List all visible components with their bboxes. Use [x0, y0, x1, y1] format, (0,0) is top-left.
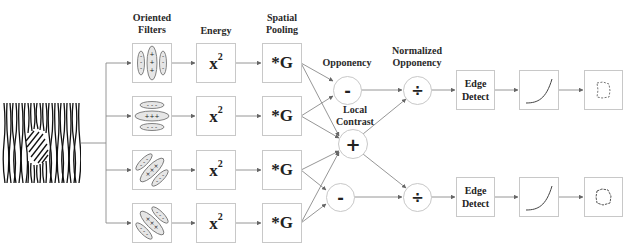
energy-box-2: x2 [196, 96, 236, 136]
normalize-divide-top: ÷ [403, 76, 432, 105]
diagonal-left-filter-icon: --- ××× --- [133, 204, 171, 242]
energy-base: x [209, 160, 218, 179]
edge-detect-label: Edge Detect [462, 184, 489, 210]
label-opponency: Opponency [314, 57, 380, 69]
exponential-curve-icon [520, 178, 558, 216]
energy-square-label: x2 [209, 53, 223, 74]
svg-text:+++: +++ [144, 112, 159, 119]
label-line: Local [330, 104, 380, 116]
svg-text:-: - [143, 158, 145, 165]
diagonal-right-filter-icon: --- ××× --- [133, 151, 171, 189]
svg-text:- - -: - - - [147, 123, 157, 130]
svg-text:-: - [140, 224, 142, 231]
svg-text:- - -: - - - [147, 101, 157, 108]
exponential-curve-icon [520, 71, 558, 109]
svg-text:×: × [145, 215, 150, 222]
svg-text:×: × [145, 170, 150, 177]
pooling-box-1: *G [262, 43, 302, 83]
label-line: Spatial [256, 12, 308, 24]
energy-base: x [209, 213, 218, 232]
opponency-subtract-bottom: - [326, 183, 355, 212]
energy-exponent: 2 [218, 211, 223, 222]
label-line: Detect [462, 90, 489, 103]
gaussian-pooling-label: *G [271, 213, 293, 233]
detected-contour-icon [585, 71, 622, 109]
svg-text:+: + [149, 50, 154, 57]
energy-exponent: 2 [218, 104, 223, 115]
edge-detect-box-bottom: Edge Detect [456, 177, 495, 217]
pooling-box-2: *G [262, 96, 302, 136]
svg-text:-: - [159, 211, 161, 218]
energy-base: x [209, 106, 218, 125]
svg-text:+: + [149, 66, 154, 73]
nonlinearity-box-bottom [519, 177, 559, 217]
label-oriented-filters: Oriented Filters [126, 12, 178, 36]
gaussian-pooling-label: *G [271, 106, 293, 126]
edge-detect-box-top: Edge Detect [456, 70, 495, 110]
filter-vertical: --- +++ --- [132, 43, 172, 83]
vertical-filter-icon: --- +++ --- [133, 44, 171, 82]
gaussian-pooling-label: *G [271, 53, 293, 73]
svg-text:-: - [140, 161, 142, 168]
energy-base: x [209, 53, 218, 72]
energy-square-label: x2 [209, 213, 223, 234]
filter-diagonal-left: --- ××× --- [132, 203, 172, 243]
nonlinearity-box-top [519, 70, 559, 110]
energy-square-label: x2 [209, 106, 223, 127]
label-line: Opponency [384, 57, 450, 69]
svg-text:-: - [146, 155, 148, 162]
svg-text:-: - [140, 64, 142, 71]
energy-exponent: 2 [218, 51, 223, 62]
label-line: Contrast [330, 116, 380, 128]
label-line: Pooling [256, 24, 308, 36]
output-box-bottom [584, 177, 623, 217]
normalize-divide-bottom: ÷ [403, 183, 432, 212]
svg-text:-: - [162, 64, 164, 71]
horizontal-filter-icon: - - -+++- - - [133, 97, 171, 135]
label-line: Edge [462, 77, 489, 90]
energy-square-label: x2 [209, 160, 223, 181]
opponency-subtract-top: - [333, 76, 362, 105]
filter-horizontal: - - -+++- - - [132, 96, 172, 136]
input-texture-image [2, 103, 81, 183]
filter-diagonal-right: --- ××× --- [132, 150, 172, 190]
svg-text:-: - [162, 214, 164, 221]
energy-box-4: x2 [196, 203, 236, 243]
svg-text:-: - [159, 174, 161, 181]
label-line: Detect [462, 197, 489, 210]
svg-text:-: - [143, 227, 145, 234]
energy-box-3: x2 [196, 150, 236, 190]
detected-contour-icon [585, 178, 622, 216]
local-contrast-sum: + [338, 129, 368, 159]
pooling-box-3: *G [262, 150, 302, 190]
energy-box-1: x2 [196, 43, 236, 83]
label-line: Oriented [126, 12, 178, 24]
label-spatial-pooling: Spatial Pooling [256, 12, 308, 36]
gaussian-pooling-label: *G [271, 160, 293, 180]
energy-exponent: 2 [218, 158, 223, 169]
svg-text:+: + [149, 58, 154, 65]
svg-text:-: - [156, 177, 158, 184]
svg-text:-: - [146, 230, 148, 237]
pooling-box-4: *G [262, 203, 302, 243]
svg-text:×: × [153, 223, 158, 230]
label-line: Filters [126, 24, 178, 36]
label-line: Normalized [384, 45, 450, 57]
edge-detect-label: Edge Detect [462, 77, 489, 103]
label-energy: Energy [192, 25, 240, 37]
output-box-top [584, 70, 623, 110]
svg-text:-: - [156, 208, 158, 215]
label-local-contrast: Local Contrast [330, 104, 380, 128]
label-line: Edge [462, 184, 489, 197]
label-normalized-opponency: Normalized Opponency [384, 45, 450, 69]
svg-text:×: × [153, 162, 158, 169]
svg-text:-: - [162, 171, 164, 178]
